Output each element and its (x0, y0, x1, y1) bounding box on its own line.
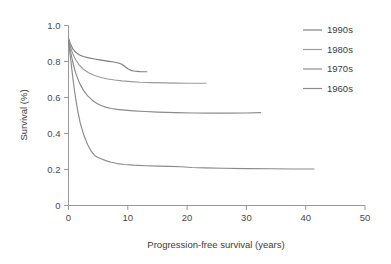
data-series-group (69, 38, 315, 169)
x-tick-label: 0 (66, 212, 71, 223)
x-tick-label: 20 (182, 212, 193, 223)
series-line-1980s (69, 38, 207, 83)
x-tick-label: 50 (360, 212, 371, 223)
x-axis-ticks: 01020304050 (66, 206, 370, 224)
y-tick-label: 0.6 (47, 92, 60, 103)
y-tick-label: 0.4 (47, 128, 60, 139)
x-axis-title: Progression-free survival (years) (147, 239, 284, 250)
survival-chart-figure: 01020304050 00.20.40.60.81.0 1990s1980s1… (0, 0, 391, 264)
x-tick-label: 40 (300, 212, 311, 223)
chart-canvas: 01020304050 00.20.40.60.81.0 1990s1980s1… (0, 0, 391, 264)
series-line-1960s (69, 41, 315, 169)
legend-label-1970s: 1970s (327, 63, 353, 74)
y-tick-label: 1.0 (47, 20, 60, 31)
y-tick-label: 0 (55, 200, 60, 211)
legend-label-1980s: 1980s (327, 44, 353, 55)
legend-label-1960s: 1960s (327, 83, 353, 94)
y-tick-label: 0.8 (47, 56, 60, 67)
x-tick-label: 10 (123, 212, 134, 223)
x-tick-label: 30 (241, 212, 252, 223)
axes (69, 26, 366, 206)
legend: 1990s1980s1970s1960s (303, 24, 353, 94)
y-tick-label: 0.2 (47, 164, 60, 175)
y-axis-ticks: 00.20.40.60.81.0 (47, 20, 68, 211)
y-axis-title: Survival (%) (18, 89, 29, 140)
legend-label-1990s: 1990s (327, 24, 353, 35)
